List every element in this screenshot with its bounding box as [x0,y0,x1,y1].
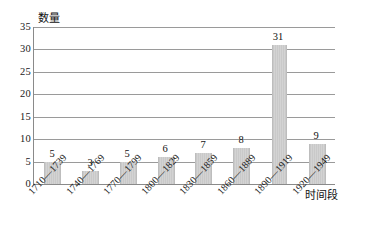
x-axis-title: 时间段 [305,189,338,202]
y-tick-label: 20 [5,89,31,99]
y-tick-30: 30 [0,44,31,54]
gridline-30 [33,49,335,50]
bar-value-label: 6 [149,144,181,154]
bar-chart: 35302520151050 数量 时间段 535678319 1710—173… [0,0,367,252]
y-tick-5: 5 [0,157,31,167]
y-tick-label: 10 [5,134,31,144]
y-tick-25: 25 [0,67,31,77]
bar-value-label: 7 [187,140,219,150]
y-tick-label: 15 [5,112,31,122]
gridline-25 [33,72,335,73]
bars-layer: 535678319 [0,0,367,252]
y-tick-35: 35 [0,22,31,32]
bar-value-label: 31 [262,32,294,42]
y-tick-10: 10 [0,134,31,144]
y-tick-label: 5 [5,157,31,167]
y-axis-title: 数量 [38,12,60,25]
bar-value-label: 8 [225,135,257,145]
x-axis-label: 1770—1799 [101,152,144,197]
gridline-20 [33,94,335,95]
x-axis-label: 1740—1769 [64,152,107,197]
y-tick-label: 25 [5,67,31,77]
y-tick-20: 20 [0,89,31,99]
gridline-15 [33,117,335,118]
y-tick-label: 35 [5,22,31,32]
y-axis-line [33,27,34,184]
y-tick-15: 15 [0,112,31,122]
gridline-35 [33,27,335,28]
gridline-10 [33,139,335,140]
y-tick-label: 30 [5,44,31,54]
